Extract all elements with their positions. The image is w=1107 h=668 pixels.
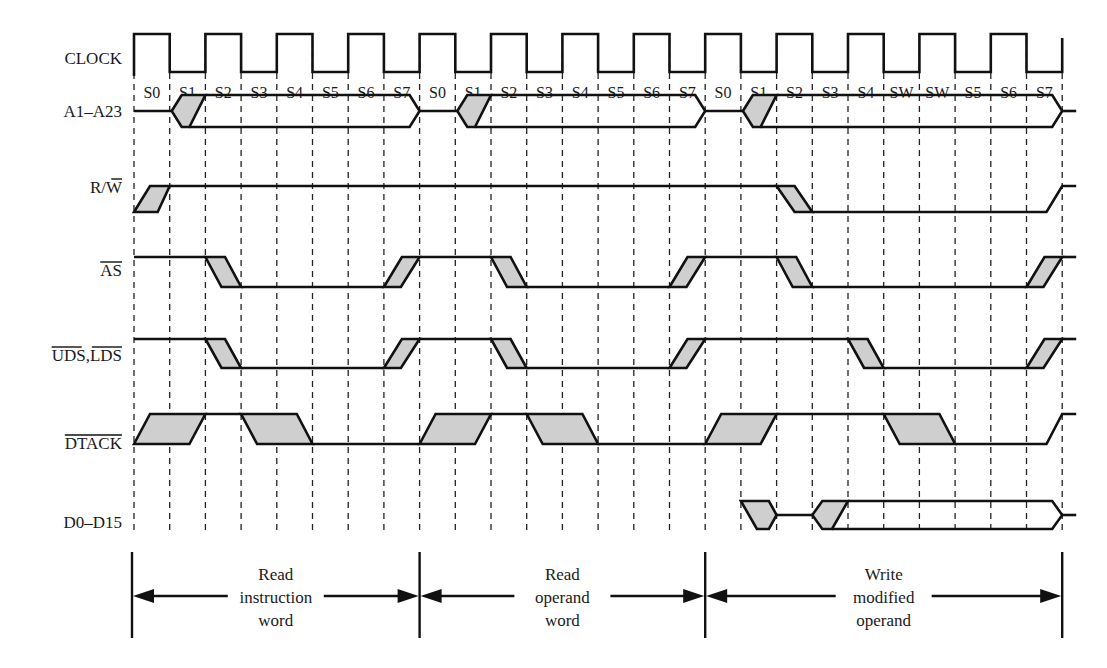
as-rise (670, 257, 706, 287)
waveforms (134, 34, 1076, 529)
state-label: S2 (215, 84, 232, 101)
data-valid (832, 501, 1062, 529)
as-fall (205, 257, 241, 287)
state-label: S7 (679, 84, 696, 101)
state-label: S6 (358, 84, 375, 101)
data-transition (741, 501, 777, 529)
state-label: S4 (572, 84, 589, 101)
phase-label-read-operand: Read (545, 565, 580, 584)
state-label: SW (890, 84, 915, 101)
state-label: S7 (1036, 84, 1053, 101)
arrowhead-left-icon (421, 589, 442, 603)
phase-label-read-instruction: word (258, 611, 293, 630)
arrowhead-left-icon (706, 589, 727, 603)
as-rise (1027, 257, 1063, 287)
state-label: S5 (964, 84, 981, 101)
state-label: S7 (393, 84, 410, 101)
addr-transition (457, 95, 491, 127)
dtack-rise (420, 414, 491, 444)
state-label: S0 (143, 84, 160, 101)
arrowhead-right-icon (1040, 589, 1061, 603)
signal-label-dtack: DTACK (65, 434, 123, 453)
phase-label-read-instruction: instruction (239, 588, 312, 607)
state-label: S6 (1000, 84, 1017, 101)
state-label: S0 (429, 84, 446, 101)
arrowhead-left-icon (133, 589, 154, 603)
uds-rise (670, 339, 706, 368)
state-label: S6 (643, 84, 660, 101)
state-label: S5 (607, 84, 624, 101)
addr-transition (172, 95, 206, 127)
state-label: S4 (857, 84, 874, 101)
state-label: SW (925, 84, 950, 101)
signal-label-data: D0–D15 (63, 513, 122, 532)
phase-label-read-instruction: Read (258, 565, 293, 584)
dtack-fall (884, 414, 955, 444)
state-label: S2 (500, 84, 517, 101)
state-gridlines (134, 40, 1062, 530)
dtack-fall (527, 414, 598, 444)
arrowhead-right-icon (683, 589, 704, 603)
uds-rise (384, 339, 420, 368)
phase-label-write-operand: modified (853, 588, 915, 607)
signal-label-addr: A1–A23 (63, 102, 122, 121)
dtack-rise (134, 414, 205, 444)
dtack-fall (241, 414, 312, 444)
clock-waveform (134, 34, 1062, 76)
phase-label-read-operand: operand (535, 588, 590, 607)
timing-diagram: S0S1S2S3S4S5S6S7S0S1S2S3S4S5S6S7S0S1S2S3… (0, 0, 1107, 668)
as-fall (777, 257, 813, 287)
phase-label-write-operand: Write (865, 565, 903, 584)
data-transition (812, 501, 848, 529)
signal-label-as: AS (100, 261, 122, 280)
as-rise (384, 257, 420, 287)
uds-fall (848, 339, 884, 368)
arrowhead-right-icon (398, 589, 419, 603)
as-fall (491, 257, 527, 287)
bus-cycle-phases: ReadinstructionwordReadoperandwordWritem… (132, 552, 1062, 638)
addr-transition (743, 95, 777, 127)
state-label: S3 (536, 84, 553, 101)
phase-label-write-operand: operand (856, 611, 911, 630)
rw-transition (777, 186, 813, 212)
state-label: S3 (822, 84, 839, 101)
state-label: S2 (786, 84, 803, 101)
signal-labels: CLOCKA1–A23R/WASUDS,LDSDTACKD0–D15 (52, 49, 123, 532)
rw-transition (134, 186, 170, 212)
uds-fall (491, 339, 527, 368)
uds-fall (205, 339, 241, 368)
state-label: S5 (322, 84, 339, 101)
state-label: S4 (286, 84, 303, 101)
signal-label-rw: R/W (90, 178, 123, 197)
rw-low (812, 186, 1076, 212)
state-label: S0 (715, 84, 732, 101)
uds-rise (1027, 339, 1063, 368)
dtack-rise (705, 414, 776, 444)
signal-label-clock: CLOCK (64, 49, 122, 68)
state-label: S3 (250, 84, 267, 101)
signal-label-uds: UDS,LDS (52, 346, 122, 365)
dtack-low (955, 414, 1076, 444)
phase-label-read-operand: word (545, 611, 580, 630)
